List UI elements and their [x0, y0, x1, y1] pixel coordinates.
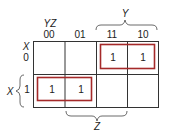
cell-1-0: 1: [42, 85, 62, 95]
row-header-1: 1: [22, 85, 32, 95]
row-var-label: X: [21, 42, 31, 52]
col-header-11: 11: [102, 30, 122, 40]
x-brace-label: X: [4, 87, 16, 97]
col-header-00: 00: [39, 30, 59, 40]
z-brace-icon: [66, 111, 127, 121]
row-header-0: 0: [21, 53, 31, 63]
col-header-10: 10: [133, 30, 153, 40]
kmap-graphics: [0, 0, 172, 138]
col-header-01: 01: [70, 30, 90, 40]
z-brace-label: Z: [91, 122, 103, 132]
cell-0-2: 1: [103, 53, 123, 63]
col-vars-label: YZ: [43, 19, 57, 29]
cell-0-3: 1: [133, 53, 153, 63]
cell-1-1: 1: [71, 85, 91, 95]
y-brace-label: Y: [119, 9, 131, 19]
